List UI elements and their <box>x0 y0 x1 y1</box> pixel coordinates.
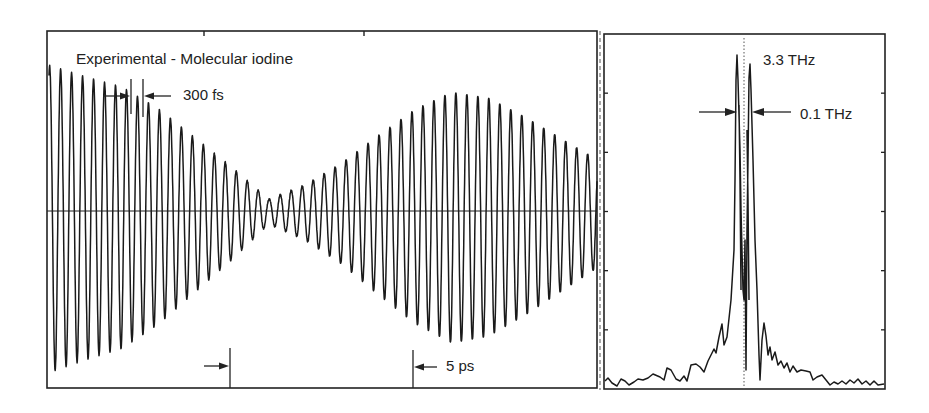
arrow-right-icon <box>120 93 130 100</box>
arrow-right-icon <box>219 363 229 370</box>
spectrum-panel <box>600 31 885 390</box>
time-scale-label: 5 ps <box>446 358 474 373</box>
time-domain-panel <box>47 31 597 388</box>
width-marker <box>699 108 791 116</box>
period-label: 300 fs <box>183 87 224 102</box>
chart-title: Experimental - Molecular iodine <box>76 51 293 67</box>
peak-width-label: 0.1 THz <box>800 106 852 121</box>
time-scale-bar <box>204 348 437 388</box>
peak-frequency-label: 3.3 THz <box>763 52 815 67</box>
